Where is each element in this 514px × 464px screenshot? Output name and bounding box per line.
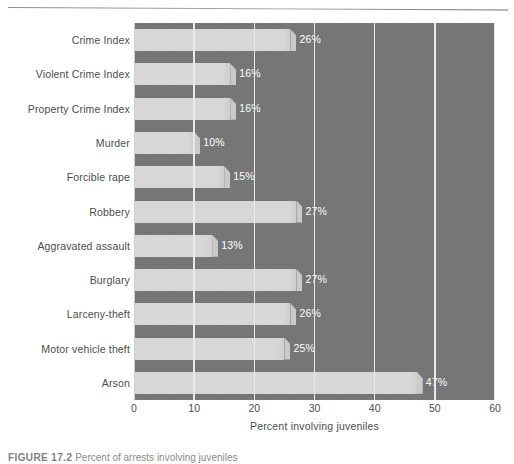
bar-bevel-tip: [296, 201, 302, 223]
y-axis-label-forcible-rape: Forcible rape: [0, 171, 130, 183]
y-axis-label-violent-crime-index: Violent Crime Index: [0, 68, 130, 80]
bar-value-label: 13%: [221, 239, 243, 251]
gridline-40: [374, 23, 376, 400]
x-tick-30: 30: [309, 402, 321, 414]
bar-bevel-tip: [230, 63, 236, 85]
bar-murder: [134, 132, 194, 154]
figure-caption-text: Percent of arrests involving juveniles: [75, 452, 237, 463]
y-axis-label-robbery: Robbery: [0, 206, 130, 218]
x-tick-50: 50: [429, 402, 441, 414]
bar-value-label: 26%: [299, 33, 321, 45]
bar-tip-shade: [283, 29, 290, 51]
bar-burglary: [134, 269, 296, 291]
bar-bevel-tip: [290, 29, 296, 51]
bar-tip-shade: [223, 98, 230, 120]
bar-aggravated-assault: [134, 235, 212, 257]
bar-violent-crime-index: [134, 63, 230, 85]
bar-tip-shade: [283, 303, 290, 325]
bar-tip-shade: [289, 201, 296, 223]
y-axis-label-larceny-theft: Larceny-theft: [0, 308, 130, 320]
gridline-0: [134, 23, 135, 400]
y-axis-label-burglary: Burglary: [0, 274, 130, 286]
bar-bevel-tip: [284, 338, 290, 360]
x-tick-0: 0: [131, 402, 137, 414]
bar-forcible-rape: [134, 166, 224, 188]
bar-tip-shade: [289, 269, 296, 291]
bar-value-label: 16%: [239, 102, 261, 114]
gridline-20: [254, 23, 256, 400]
bar-motor-vehicle-theft: [134, 338, 284, 360]
x-tick-20: 20: [248, 402, 260, 414]
x-axis-title: Percent involving juveniles: [134, 420, 495, 432]
gridline-50: [434, 23, 436, 400]
bar-bevel-tip: [296, 269, 302, 291]
bar-value-label: 26%: [299, 307, 321, 319]
bar-bevel-tip: [230, 98, 236, 120]
y-axis-label-aggravated-assault: Aggravated assault: [0, 240, 130, 252]
bar-bevel-tip: [290, 303, 296, 325]
figure-container: Crime IndexViolent Crime IndexProperty C…: [0, 0, 514, 464]
bar-tip-shade: [217, 166, 224, 188]
x-tick-10: 10: [188, 402, 200, 414]
x-axis-tick-labels: 0102030405060: [134, 402, 495, 418]
y-axis-category-labels: Crime IndexViolent Crime IndexProperty C…: [0, 23, 130, 400]
y-axis-label-crime-index: Crime Index: [0, 34, 130, 46]
bar-value-label: 10%: [203, 136, 225, 148]
bar-tip-shade: [205, 235, 212, 257]
bar-bevel-tip: [194, 132, 200, 154]
y-axis-label-motor-vehicle-theft: Motor vehicle theft: [0, 343, 130, 355]
bar-tip-shade: [410, 372, 417, 394]
y-axis-label-arson: Arson: [0, 377, 130, 389]
top-horizontal-rule: [8, 7, 508, 10]
x-tick-60: 60: [489, 402, 501, 414]
bar-value-label: 16%: [239, 67, 261, 79]
bar-bevel-tip: [224, 166, 230, 188]
gridline-10: [193, 23, 195, 400]
x-tick-40: 40: [369, 402, 381, 414]
bar-value-label: 27%: [305, 273, 327, 285]
bar-value-label: 25%: [293, 342, 315, 354]
bar-bevel-tip: [212, 235, 218, 257]
bar-value-label: 15%: [233, 170, 255, 182]
gridline-60: [494, 23, 495, 400]
gridline-30: [314, 23, 316, 400]
bar-value-label: 47%: [426, 376, 448, 388]
bar-crime-index: [134, 29, 290, 51]
bar-larceny-theft: [134, 303, 290, 325]
figure-number: FIGURE 17.2: [8, 452, 72, 463]
bar-property-crime-index: [134, 98, 230, 120]
bar-tip-shade: [223, 63, 230, 85]
bar-bevel-tip: [417, 372, 423, 394]
bar-robbery: [134, 201, 296, 223]
chart-plot-area: 26%16%16%10%15%27%13%27%26%25%47%: [134, 23, 495, 400]
bar-value-label: 27%: [305, 205, 327, 217]
y-axis-label-property-crime-index: Property Crime Index: [0, 103, 130, 115]
bar-tip-shade: [277, 338, 284, 360]
y-axis-label-murder: Murder: [0, 137, 130, 149]
figure-caption: FIGURE 17.2 Percent of arrests involving…: [8, 452, 508, 464]
